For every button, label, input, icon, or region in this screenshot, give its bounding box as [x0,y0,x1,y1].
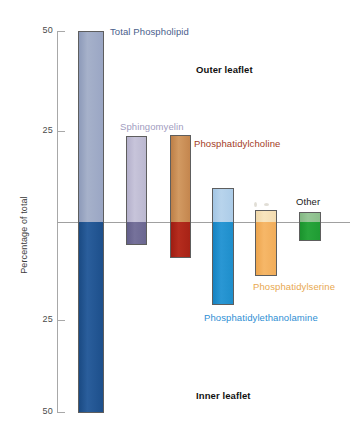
series-label-phosphatidylethanolamine: Phosphatidylethanolamine [204,312,318,323]
bar-inner-phosphatidylcholine [170,222,191,258]
scan-artifact-mark [254,202,257,207]
series-label-other: Other [296,196,320,207]
y-tick-mark-50-bottom [57,412,65,413]
phospholipid-distribution-chart: 50 25 25 50 Percentage of total Total Ph… [0,0,358,438]
annotation-outer-leaflet: Outer leaflet [196,64,253,75]
bar-outer-sphingomyelin [126,136,147,222]
series-label-phosphatidylcholine: Phosphatidylcholine [194,138,280,149]
y-tick-label-50-bottom: 50 [31,406,53,416]
y-tick-label-25-top: 25 [31,125,53,135]
bar-outer-phosphatidylethanolamine [212,188,234,222]
y-tick-label-50-top: 50 [31,25,53,35]
bar-outer-total-phospholipid [78,31,104,223]
y-tick-mark-50-top [57,31,65,32]
bar-inner-phosphatidylethanolamine [212,222,234,305]
bar-inner-phosphatidylserine [255,222,277,276]
annotation-inner-leaflet: Inner leaflet [196,390,251,401]
series-label-phosphatidylserine: Phosphatidylserine [253,281,335,292]
bar-inner-sphingomyelin [126,222,147,245]
bar-inner-total-phospholipid [78,222,104,413]
bar-outer-other [299,212,321,222]
bar-outer-phosphatidylserine [255,210,277,222]
scan-artifact-mark [264,203,269,206]
y-axis-title: Percentage of total [19,180,29,290]
series-label-total-phospholipid: Total Phospholipid [110,26,189,37]
series-label-sphingomyelin: Sphingomyelin [120,121,184,132]
bar-outer-phosphatidylcholine [170,135,191,222]
bar-inner-other [299,222,321,241]
y-tick-label-25-bottom: 25 [31,314,53,324]
y-tick-mark-25-bottom [57,320,65,321]
y-tick-mark-25-top [57,131,65,132]
